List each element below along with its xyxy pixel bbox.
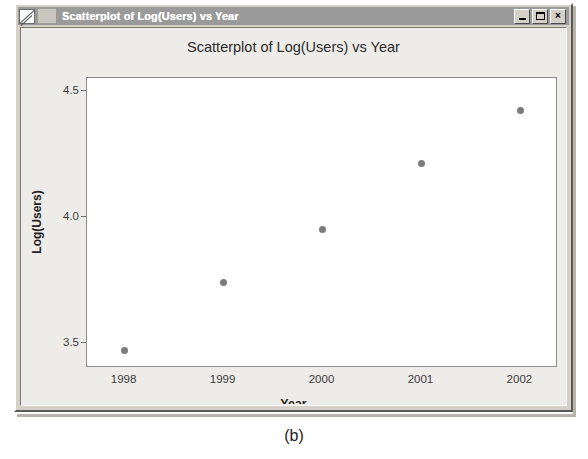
window-client-area: Scatterplot of Log(Users) vs Year Log(Us… (20, 27, 567, 406)
x-axis-title: Year (22, 397, 565, 404)
figure-caption: (b) (0, 427, 588, 445)
plot-window: Scatterplot of Log(Users) vs Year × Scat… (14, 3, 573, 412)
window-title: Scatterplot of Log(Users) vs Year (56, 10, 514, 22)
window-title-bar[interactable]: Scatterplot of Log(Users) vs Year × (18, 7, 569, 25)
data-point (220, 279, 227, 286)
data-point (418, 160, 425, 167)
window-drop-shadow-bottom (17, 414, 576, 417)
scatterplot-canvas: Scatterplot of Log(Users) vs Year Log(Us… (22, 29, 565, 404)
title-bar-spacer (38, 9, 56, 23)
close-icon: × (555, 11, 561, 21)
minimize-icon (519, 18, 526, 20)
data-point (121, 347, 128, 354)
close-button[interactable]: × (550, 9, 566, 24)
plot-frame (86, 77, 557, 367)
y-axis-tick-label: 3.5 (63, 336, 79, 348)
plot-document-icon (19, 9, 35, 24)
y-axis-tick-label: 4.0 (63, 210, 79, 222)
maximize-button[interactable] (532, 9, 548, 24)
x-axis-tick-label: 2001 (408, 373, 434, 385)
chart-title: Scatterplot of Log(Users) vs Year (22, 39, 565, 55)
x-axis-tick-label: 1999 (210, 373, 236, 385)
maximize-icon (536, 12, 545, 20)
x-axis-tick-label: 1998 (111, 373, 137, 385)
window-controls: × (514, 9, 568, 24)
x-axis-tick-label: 2002 (507, 373, 533, 385)
data-point (319, 226, 326, 233)
data-point (517, 107, 524, 114)
window-drop-shadow-right (573, 6, 576, 416)
y-axis-tick-label: 4.5 (63, 84, 79, 96)
x-axis-tick-label: 2000 (309, 373, 335, 385)
minimize-button[interactable] (514, 9, 530, 24)
y-axis-title: Log(Users) (30, 190, 44, 253)
